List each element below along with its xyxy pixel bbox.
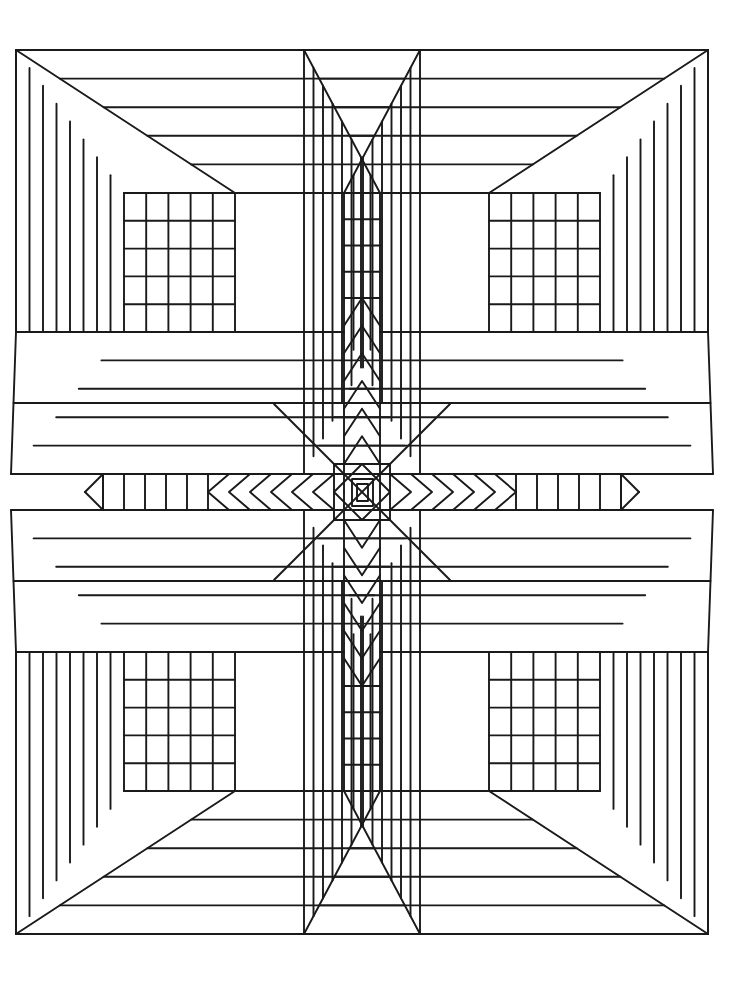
page-root: Symmetric black-and-white line drawing: … <box>0 0 756 983</box>
geometric-artwork: Symmetric black-and-white line drawing: … <box>0 0 756 983</box>
canvas-background <box>0 0 756 983</box>
